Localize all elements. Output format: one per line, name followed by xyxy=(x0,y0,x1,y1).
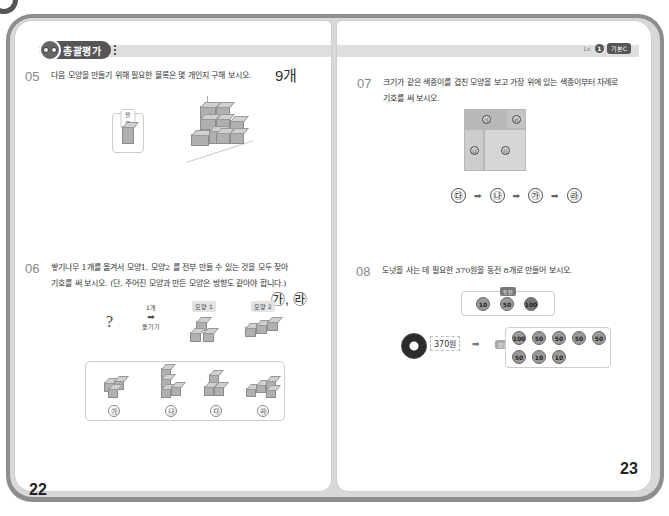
question-mark: ? xyxy=(106,313,113,331)
question-text-line1: 크기가 같은 색종이를 겹친 모양을 보고 가장 위에 있는 색종이부터 차례로 xyxy=(383,75,618,91)
paper-da: ㉰ xyxy=(484,129,526,171)
paper-na: ㉯ xyxy=(464,129,484,171)
block-cube xyxy=(256,384,266,393)
block-cube xyxy=(191,134,209,146)
overlapping-papers-figure: ㉮ ㉱ ㉯ ㉰ xyxy=(464,109,526,171)
badge-tail xyxy=(114,45,117,55)
owl-icon xyxy=(39,39,61,61)
coin-icon: 10 xyxy=(476,297,490,311)
page-right: Lv. 1 기본C 07 크기가 같은 색종이를 겹친 모양을 보고 가장 위에… xyxy=(336,20,652,492)
arrow-right-icon: ➡ xyxy=(139,312,163,322)
move-count: 1개 xyxy=(139,303,163,312)
level-number: 1 xyxy=(595,44,604,53)
coin-icon: 50 xyxy=(512,350,526,364)
sequence-item: ㉱ xyxy=(567,188,582,203)
coin-types-box: 동전 10 50 100 xyxy=(461,291,555,316)
block-cube xyxy=(256,324,267,334)
answer-text: ㉮, ㉱ xyxy=(271,288,307,308)
question-text: 다음 모양을 만들기 위해 필요한 블록은 몇 개인지 구해 보시오. xyxy=(51,68,251,84)
question-text: 도넛을 사는 데 필요한 370원을 동전 8개로 만들어 보시오. xyxy=(382,263,572,279)
question-text-line2: 기호를 써 보시오. (단, 주어진 모양과 만든 모양은 방향도 같아야 합니… xyxy=(51,276,286,292)
donut-icon xyxy=(401,333,427,359)
coin-icon: 100 xyxy=(512,331,526,345)
choice-label: ㉯ xyxy=(165,405,177,417)
arrow-right-icon: ➡ xyxy=(551,191,559,201)
question-number: 05 xyxy=(25,69,39,84)
question-number: 07 xyxy=(357,76,371,91)
coin-icon: 10 xyxy=(532,350,546,364)
paper-mark: ㉯ xyxy=(470,146,479,155)
level-indicator: Lv. 1 기본C xyxy=(583,43,631,54)
block-cube xyxy=(203,332,214,342)
question-number: 08 xyxy=(356,264,370,279)
section-badge: 총괄평가 xyxy=(39,41,111,59)
block-cube xyxy=(246,388,256,397)
sequence-item: ㉮ xyxy=(528,188,543,203)
section-badge-label: 총괄평가 xyxy=(63,43,101,58)
level-tag: 기본C xyxy=(607,43,631,54)
paper-mark: ㉰ xyxy=(501,146,510,155)
sequence-item: ㉰ xyxy=(451,188,466,203)
block-cube xyxy=(266,389,276,398)
paper-mark: ㉱ xyxy=(512,115,521,124)
single-block-icon xyxy=(122,126,134,144)
move-label: 옮기기 xyxy=(139,322,163,331)
coin-box-label: 동전 xyxy=(500,287,516,296)
coin-icon: 50 xyxy=(532,331,546,345)
paper-mark: ㉮ xyxy=(482,115,491,124)
block-cube xyxy=(108,388,118,398)
choices-box: ㉮ ㉯ ㉰ ㉱ xyxy=(85,361,285,421)
arrow-right-icon: ➡ xyxy=(513,191,521,201)
shape1-label: 모양 1 xyxy=(192,301,216,312)
level-prefix: Lv. xyxy=(583,45,591,52)
paper-ga: ㉮ xyxy=(464,109,506,129)
arrow-right-icon: ➡ xyxy=(472,339,480,349)
price-tag: 370원 xyxy=(430,336,460,351)
page-number-left: 22 xyxy=(29,481,47,499)
owl-eye-right xyxy=(51,47,57,53)
paper-ra: ㉱ xyxy=(506,109,526,129)
arrow-right-icon: ➡ xyxy=(474,191,482,201)
choice-label: ㉱ xyxy=(257,405,269,417)
block-cube xyxy=(245,327,256,337)
block-cube xyxy=(204,386,214,396)
block-cube xyxy=(161,388,171,398)
answer-sequence: ㉰ ➡ ㉯ ➡ ㉮ ➡ ㉱ xyxy=(451,188,582,203)
question-text-line2: 기호를 써 보시오. xyxy=(383,91,440,107)
question-number: 06 xyxy=(25,261,39,276)
corner-arc xyxy=(0,0,18,14)
coin-icon: 50 xyxy=(572,331,586,345)
page-left: 총괄평가 05 다음 모양을 만들기 위해 필요한 블록은 몇 개인지 구해 보… xyxy=(14,20,332,492)
block-cube xyxy=(190,332,201,342)
answer-text: 9개 xyxy=(275,64,297,85)
block-box: 블록 xyxy=(112,113,144,153)
choice-label: ㉰ xyxy=(210,405,222,417)
block-cube xyxy=(267,321,278,331)
page-number-right: 23 xyxy=(620,460,638,478)
owl-eye-left xyxy=(43,47,49,53)
block-cube xyxy=(214,386,224,396)
move-arrow: 1개 ➡ 옮기기 xyxy=(139,303,163,331)
question-text-line1: 쌓기나무 1개를 옮겨서 모양1, 모양2 를 전부 만들 수 있는 것을 모두… xyxy=(51,260,288,276)
answer-coins-box: 100 50 50 50 50 50 10 10 xyxy=(505,327,611,368)
block-cube xyxy=(216,132,230,144)
block-cube xyxy=(230,132,244,144)
shape2-label: 모양 2 xyxy=(251,301,275,312)
coin-icon: 10 xyxy=(552,350,566,364)
coin-icon: 50 xyxy=(500,297,514,311)
block-cube xyxy=(171,386,181,396)
choice-label: ㉮ xyxy=(108,405,120,417)
coin-icon: 50 xyxy=(552,331,566,345)
sequence-item: ㉯ xyxy=(490,188,505,203)
coin-icon: 50 xyxy=(592,331,606,345)
coin-icon: 100 xyxy=(524,297,538,311)
